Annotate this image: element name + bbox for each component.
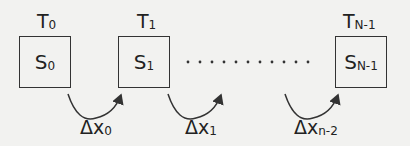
time-label-0: T0 [37, 12, 56, 31]
state-box-0: S0 [19, 36, 71, 88]
transition-label-1: Δx1 [185, 118, 217, 137]
time-label-n-1: TN-1 [343, 12, 376, 31]
state-box-n-1: SN-1 [335, 36, 387, 88]
transition-label-0: Δx0 [80, 118, 112, 137]
state-label-1: S1 [134, 50, 154, 74]
ellipsis-dots [187, 61, 310, 64]
transition-label-2: Δxn-2 [294, 118, 338, 137]
state-box-1: S1 [118, 36, 170, 88]
time-label-1: T1 [137, 12, 156, 31]
state-label-n-1: SN-1 [344, 50, 378, 74]
state-label-0: S0 [35, 50, 55, 74]
